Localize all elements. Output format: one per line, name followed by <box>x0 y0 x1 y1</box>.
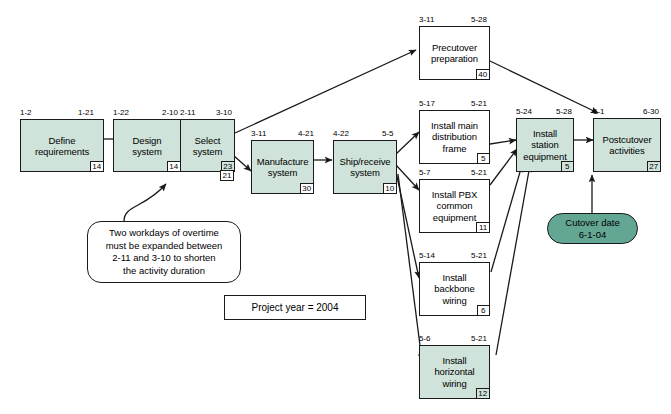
node-duration: 27 <box>647 161 661 172</box>
node-start-date: 5-24 <box>516 107 532 116</box>
link-precutover-to-postcutover <box>490 61 598 113</box>
node-finish-date: 5-28 <box>556 107 572 116</box>
link-note-to-select <box>124 184 166 221</box>
node-label: Install station equipment <box>521 128 568 163</box>
node-duration: 5 <box>561 161 574 172</box>
node-start-date: 2-11 <box>180 108 195 117</box>
project-network-diagram: 1-2 1-21 Define requirements 14 1-22 2-1… <box>0 0 671 414</box>
node-label: Postcutover activities <box>600 134 653 156</box>
node-start-date: 5-6 <box>419 334 431 343</box>
node-label: Design system <box>130 135 164 157</box>
node-duration: 5 <box>477 153 490 164</box>
project-year-label: Project year = 2004 <box>252 302 339 313</box>
node-finish-date: 5-21 <box>471 251 487 260</box>
node-install-horizontal-wiring[interactable]: Install horizontal wiring 12 <box>419 345 490 399</box>
node-start-date: 6-1 <box>593 107 605 116</box>
node-duration: 10 <box>383 183 397 194</box>
node-install-main-distribution-frame[interactable]: Install main distribution frame 5 <box>419 110 490 164</box>
overtime-note-callout: Two workdays of overtime must be expande… <box>87 221 241 283</box>
node-finish-date: 5-5 <box>382 129 394 138</box>
node-duration: 6 <box>477 305 490 316</box>
node-precutover-preparation[interactable]: Precutover preparation 40 <box>419 26 490 80</box>
node-finish-date: 4-21 <box>298 129 314 138</box>
link-select-to-precutover <box>235 50 416 133</box>
project-year-legend: Project year = 2004 <box>224 295 366 320</box>
node-finish-date: 5-21 <box>471 99 487 108</box>
node-start-date: 3-11 <box>251 129 266 138</box>
node-postcutover-activities[interactable]: Postcutover activities 27 <box>593 118 661 172</box>
cutover-date-text: Cutover date 6-1-04 <box>565 217 619 240</box>
node-duration-revised: 21 <box>220 170 234 181</box>
node-finish-date: 1-21 <box>78 108 94 117</box>
link-pbx-to-station <box>490 149 517 185</box>
node-design-system[interactable]: Design system 14 <box>113 119 181 172</box>
node-label: Define requirements <box>33 135 91 157</box>
node-manufacture-system[interactable]: Manufacture system 30 <box>251 140 314 194</box>
node-finish-date: 5-21 <box>471 168 487 177</box>
connector-layer <box>0 0 671 414</box>
link-backbone-to-station <box>491 165 522 272</box>
node-finish-date: 2-10 <box>162 108 178 117</box>
node-duration: 14 <box>167 161 181 172</box>
node-start-date: 1-2 <box>20 108 32 117</box>
node-label: Install horizontal wiring <box>432 355 476 390</box>
node-label: Precutover preparation <box>429 42 480 64</box>
node-label: Ship/receive system <box>337 156 392 178</box>
node-start-date: 5-14 <box>419 251 435 260</box>
node-duration: 30 <box>300 183 314 194</box>
node-duration: 14 <box>90 161 104 172</box>
node-start-date: 1-22 <box>113 108 129 117</box>
node-ship-receive-system[interactable]: Ship/receive system 10 <box>333 140 397 194</box>
node-label: Install PBX common equipment <box>430 189 479 224</box>
overtime-note-text: Two workdays of overtime must be expande… <box>106 227 223 277</box>
node-finish-date: 5-28 <box>471 15 487 24</box>
node-start-date: 3-11 <box>419 15 434 24</box>
node-install-station-equipment[interactable]: Install station equipment 5 <box>516 118 574 172</box>
node-finish-date: 6-30 <box>643 107 659 116</box>
node-label: Install backbone wiring <box>432 272 476 307</box>
link-horizontal-to-station <box>496 165 530 355</box>
node-start-date: 4-22 <box>333 129 349 138</box>
node-duration: 12 <box>476 388 490 399</box>
cutover-date-milestone[interactable]: Cutover date 6-1-04 <box>547 213 638 244</box>
node-install-backbone-wiring[interactable]: Install backbone wiring 6 <box>419 262 490 316</box>
node-define-requirements[interactable]: Define requirements 14 <box>20 119 104 172</box>
node-start-date: 5-7 <box>419 168 431 177</box>
node-duration: 11 <box>476 222 489 233</box>
node-label: Select system <box>191 135 225 157</box>
node-finish-date: 5-21 <box>471 334 487 343</box>
node-start-date: 5-17 <box>419 99 435 108</box>
node-label: Install main distribution frame <box>429 120 480 155</box>
node-install-pbx-common-equipment[interactable]: Install PBX common equipment 11 <box>419 179 490 233</box>
node-duration: 40 <box>476 69 490 80</box>
node-label: Manufacture system <box>255 156 311 178</box>
link-select-to-manufacture <box>233 155 251 171</box>
link-ship-to-mdf <box>396 132 419 154</box>
node-select-system[interactable]: Select system 23 <box>180 119 235 172</box>
node-finish-date: 3-10 <box>216 108 232 117</box>
link-mdf-to-station <box>490 140 516 144</box>
